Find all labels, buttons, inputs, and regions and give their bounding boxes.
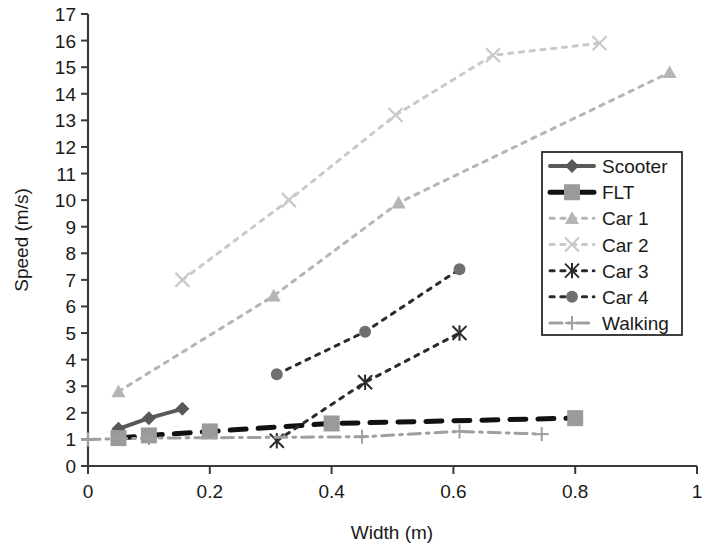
chart-container: 01234567891011121314151617 00.20.40.60.8… [0, 0, 712, 547]
x-tick-label: 0 [83, 481, 94, 502]
legend-label: Scooter [602, 156, 668, 177]
y-tick-label: 10 [55, 190, 76, 211]
y-tick-label: 17 [55, 4, 76, 25]
y-tick-label: 11 [56, 164, 76, 185]
legend-label: FLT [602, 182, 635, 203]
y-tick-label: 7 [65, 270, 76, 291]
y-axis-title: Speed (m/s) [11, 188, 32, 291]
y-tick-label: 15 [55, 57, 76, 78]
speed-vs-width-chart: 01234567891011121314151617 00.20.40.60.8… [0, 0, 712, 547]
data-point-marker [359, 326, 371, 338]
chart-legend: ScooterFLTCar 1Car 2Car 3Car 4Walking [542, 152, 682, 335]
data-point-marker [566, 291, 578, 303]
y-tick-label: 12 [55, 137, 76, 158]
data-point-marker [271, 368, 283, 380]
y-tick-label: 13 [55, 110, 76, 131]
x-tick-label: 0.6 [440, 481, 466, 502]
x-tick-label: 0.4 [318, 481, 345, 502]
y-tick-label: 2 [65, 403, 76, 424]
legend-label: Car 2 [602, 235, 648, 256]
legend-label: Car 1 [602, 208, 648, 229]
x-tick-label: 1 [692, 481, 703, 502]
data-point-marker [567, 410, 583, 426]
x-tick-label: 0.2 [197, 481, 223, 502]
data-point-marker [454, 263, 466, 275]
data-point-marker [564, 184, 580, 200]
legend-label: Car 4 [602, 287, 649, 308]
legend-label: Walking [602, 313, 669, 334]
y-tick-label: 0 [65, 456, 76, 477]
x-tick-label: 0.8 [562, 481, 588, 502]
x-axis-title: Width (m) [351, 522, 433, 543]
y-tick-label: 3 [65, 376, 76, 397]
y-tick-label: 4 [65, 350, 76, 371]
y-tick-label: 1 [65, 429, 76, 450]
y-tick-label: 8 [65, 243, 76, 264]
data-point-marker [324, 415, 340, 431]
y-tick-label: 9 [65, 217, 76, 238]
y-tick-label: 5 [65, 323, 76, 344]
legend-label: Car 3 [602, 261, 648, 282]
y-tick-label: 16 [55, 31, 76, 52]
y-tick-label: 6 [65, 296, 76, 317]
y-tick-label: 14 [55, 84, 77, 105]
